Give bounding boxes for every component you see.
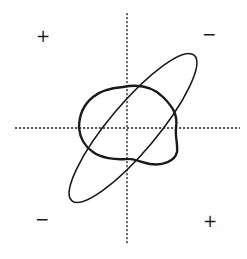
sign-top-left: + <box>36 28 50 45</box>
sign-bottom-left: − <box>35 211 49 228</box>
sign-top-right: − <box>202 26 216 43</box>
sign-bottom-right: + <box>203 213 217 230</box>
quadrant-diagram: + − − + <box>0 0 247 259</box>
